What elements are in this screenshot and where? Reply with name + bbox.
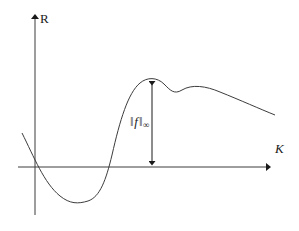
norm-left-bars: ‖	[130, 115, 133, 128]
norm-right-bars: ‖	[139, 115, 142, 128]
horizontal-axis-label: K	[275, 142, 284, 155]
function-curve	[22, 79, 275, 203]
norm-function-symbol: f	[134, 114, 139, 129]
figure-canvas: R K ‖f‖∞	[0, 0, 299, 231]
vertical-axis-label: R	[40, 12, 49, 25]
norm-annotation-label: ‖f‖∞	[130, 115, 150, 130]
norm-infinity-subscript: ∞	[143, 120, 150, 130]
